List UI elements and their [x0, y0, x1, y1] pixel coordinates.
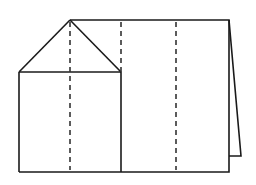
main-panel-outline: [19, 20, 229, 172]
flap-right-edge: [70, 20, 121, 72]
back-panel: [229, 20, 241, 156]
flap-left-edge: [19, 20, 70, 72]
folded-paper-diagram: [0, 0, 256, 185]
